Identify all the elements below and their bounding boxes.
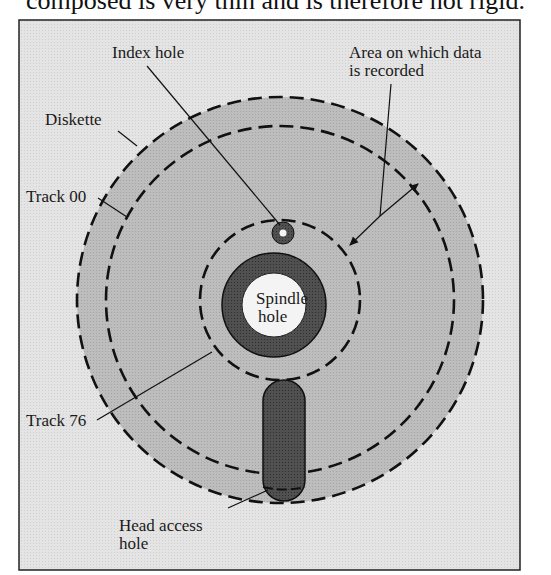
label-head-line2: hole <box>119 535 148 553</box>
diskette-diagram <box>0 0 551 575</box>
label-index-hole: Index hole <box>112 44 184 62</box>
label-track-76: Track 76 <box>26 412 86 430</box>
head-access-slot <box>263 380 305 501</box>
label-area-line1: Area on which data <box>349 44 482 62</box>
label-spindle-line1: Spindle <box>256 290 308 308</box>
label-diskette: Diskette <box>45 111 102 129</box>
label-spindle-line2: hole <box>258 308 287 326</box>
label-track-00: Track 00 <box>26 188 86 206</box>
label-head-line1: Head access <box>119 517 203 535</box>
index-hole <box>280 230 287 237</box>
label-area-line2: is recorded <box>349 62 424 80</box>
